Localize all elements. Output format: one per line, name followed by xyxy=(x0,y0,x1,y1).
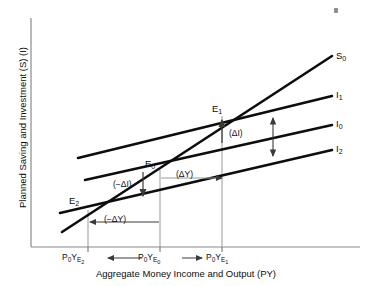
droplines xyxy=(88,116,222,247)
curve-i1 xyxy=(78,96,332,158)
x-axis-title: Aggregate Money Income and Output (PY) xyxy=(0,268,372,279)
scan-artifact-dot xyxy=(334,8,338,13)
curve-i0 xyxy=(85,125,332,180)
annotation-delta-i-positive: (ΔI) xyxy=(229,129,243,138)
annotation-delta-i-negative: (−ΔI) xyxy=(113,180,132,189)
equilibrium-label-e2: E2 xyxy=(69,196,79,206)
curve-label-i2: I2 xyxy=(336,144,343,154)
curve-i2 xyxy=(60,150,332,213)
chart-canvas xyxy=(0,0,372,286)
x-tick-label-e2: P0YE2 xyxy=(62,253,84,262)
curve-label-i0: I0 xyxy=(336,119,343,129)
annotation-delta-y-positive: (ΔY) xyxy=(176,170,193,179)
axis-frame xyxy=(31,18,360,247)
x-tick-label-e1: P0YE1 xyxy=(206,253,228,262)
x-axis-ticks xyxy=(88,247,222,252)
equilibrium-label-e0: E0 xyxy=(145,159,155,169)
annotation-delta-y-negative: (−ΔY) xyxy=(104,215,126,224)
curve-label-s0: S0 xyxy=(336,51,346,61)
equilibrium-label-e1: E1 xyxy=(212,104,222,114)
curve-s0 xyxy=(62,56,332,232)
curve-label-i1: I1 xyxy=(336,90,343,100)
y-axis-title: Planned Saving and Investment (S) (I) xyxy=(17,20,28,235)
economics-chart-figure: S0 I1 I0 I2 E1 E0 E2 (ΔI) (−ΔI) (ΔY) (−Δ… xyxy=(0,0,372,286)
x-tick-label-e0: P0YE0 xyxy=(138,253,160,262)
